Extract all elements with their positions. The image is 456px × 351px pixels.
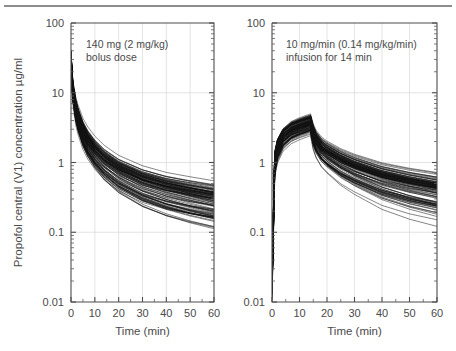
ytick-label-100: 100 <box>46 17 64 29</box>
yaxis-title: Propofol central (V1) concentration µg/m… <box>12 58 24 267</box>
xtick-label-40: 40 <box>160 307 172 319</box>
xtick-label-40: 40 <box>376 307 388 319</box>
xtick-label-30: 30 <box>348 307 360 319</box>
annotation-line-2: infusion for 14 min <box>286 51 372 63</box>
ytick-label-100: 100 <box>247 17 265 29</box>
ytick-label-10: 10 <box>52 87 64 99</box>
xtick-label-30: 30 <box>136 307 148 319</box>
annotation-line-1: 140 mg (2 mg/kg) <box>86 38 168 50</box>
annotation-line-2: bolus dose <box>86 51 137 63</box>
ytick-label-1: 1 <box>259 157 265 169</box>
figure-container: 0.010.11101000102030405060Time (min)Prop… <box>0 0 456 351</box>
xtick-label-10: 10 <box>89 307 101 319</box>
panel-left: 0.010.11101000102030405060Time (min)Prop… <box>12 17 220 337</box>
xtick-label-20: 20 <box>113 307 125 319</box>
annotation-right: 10 mg/min (0.14 mg/kg/min)infusion for 1… <box>286 38 417 63</box>
xtick-label-50: 50 <box>184 307 196 319</box>
annotation-line-1: 10 mg/min (0.14 mg/kg/min) <box>286 38 417 50</box>
xtick-label-0: 0 <box>269 307 275 319</box>
ytick-label-0.1: 0.1 <box>250 226 265 238</box>
panel-right: 0.010.11101000102030405060Time (min)10 m… <box>244 17 444 337</box>
xaxis-title-right: Time (min) <box>327 325 382 337</box>
xtick-label-60: 60 <box>431 307 443 319</box>
ytick-label-0.01: 0.01 <box>43 296 64 308</box>
ytick-label-0.1: 0.1 <box>49 226 64 238</box>
xtick-label-50: 50 <box>403 307 415 319</box>
ytick-label-10: 10 <box>253 87 265 99</box>
xtick-label-0: 0 <box>68 307 74 319</box>
header-rule <box>4 5 452 7</box>
propofol-concentration-figure: 0.010.11101000102030405060Time (min)Prop… <box>0 0 456 351</box>
annotation-left: 140 mg (2 mg/kg)bolus dose <box>86 38 168 63</box>
xtick-label-10: 10 <box>293 307 305 319</box>
ytick-label-1: 1 <box>58 157 64 169</box>
xtick-label-60: 60 <box>208 307 220 319</box>
xtick-label-20: 20 <box>321 307 333 319</box>
ytick-label-0.01: 0.01 <box>244 296 265 308</box>
xaxis-title-left: Time (min) <box>115 325 170 337</box>
